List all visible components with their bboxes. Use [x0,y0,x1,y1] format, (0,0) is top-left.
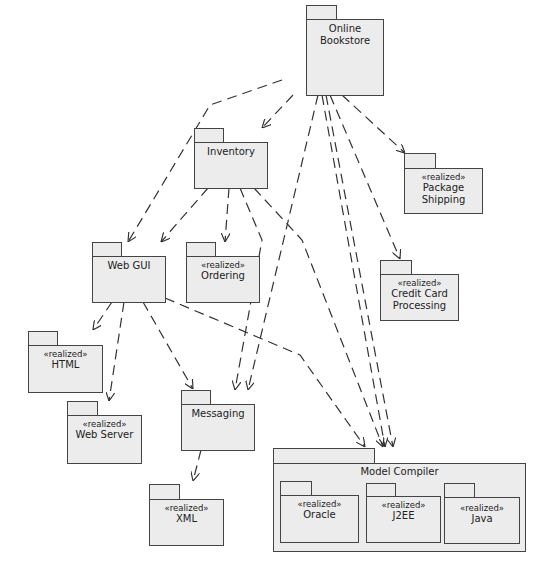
package-inventory[interactable]: Inventory [194,128,268,189]
package-body: «realized» Ordering [186,256,260,303]
package-body: Messaging [181,404,255,451]
package-diagram: Online Bookstore Inventory «realized» Pa… [0,0,551,578]
package-name: Package Shipping [405,182,482,206]
package-stereotype: «realized» [405,172,482,182]
package-oracle[interactable]: «realized» Oracle [280,481,359,543]
package-html[interactable]: «realized» HTML [28,331,103,393]
package-body: «realized» Credit Card Processing [380,274,459,321]
package-messaging[interactable]: Messaging [181,390,255,451]
package-tab [28,331,58,346]
package-xml[interactable]: «realized» XML [149,484,224,546]
package-stereotype: «realized» [445,503,519,513]
package-name: Java [445,513,519,525]
package-body: «realized» Oracle [280,495,359,543]
package-body: «realized» Package Shipping [404,168,483,214]
package-name: J2EE [367,510,440,522]
package-body: Online Bookstore [306,19,384,96]
edge-bookstore-creditcard [330,95,400,259]
package-tab [280,481,312,496]
edge-messaging-xml [193,450,201,481]
edge-bookstore-inventory [262,95,293,128]
edge-inventory-ordering [225,188,229,242]
package-tab [306,5,337,20]
package-name: Model Compiler [274,466,525,478]
package-name: Messaging [182,408,254,420]
edge-webgui-messaging [143,302,193,389]
package-name: HTML [29,359,102,371]
package-tab [380,260,412,275]
package-name: XML [150,513,223,525]
edge-webgui-html [93,302,112,330]
package-tab [181,390,211,405]
package-stereotype: «realized» [281,499,358,509]
package-web-server[interactable]: «realized» Web Server [67,401,142,464]
package-name: Web Server [68,429,141,441]
package-ordering[interactable]: «realized» Ordering [186,242,260,303]
package-name: Inventory [195,146,267,158]
package-tab [186,242,216,257]
package-stereotype: «realized» [150,503,223,513]
package-credit-card-processing[interactable]: «realized» Credit Card Processing [380,260,459,321]
edge-bookstore-compiler-1 [322,95,385,447]
package-body: «realized» Web Server [67,415,142,464]
package-body: Inventory [194,142,268,189]
package-online-bookstore[interactable]: Online Bookstore [306,5,384,96]
package-java[interactable]: «realized» Java [444,483,520,544]
package-stereotype: «realized» [381,278,458,288]
package-package-shipping[interactable]: «realized» Package Shipping [404,153,483,214]
package-tab [366,483,396,497]
package-stereotype: «realized» [29,349,102,359]
package-name: Ordering [187,270,259,282]
package-stereotype: «realized» [367,500,440,510]
package-tab [194,128,224,143]
package-body: «realized» J2EE [366,496,441,543]
package-name: Oracle [281,509,358,521]
package-tab [92,242,122,257]
package-web-gui[interactable]: Web GUI [92,242,166,303]
package-tab [67,401,98,416]
package-model-compiler[interactable]: Model Compiler «realized» Oracle «realiz… [273,448,526,552]
package-stereotype: «realized» [68,419,141,429]
edge-inventory-compiler [254,188,383,447]
package-body: «realized» Java [444,497,520,544]
edge-inventory-webgui [161,188,208,242]
package-stereotype: «realized» [187,260,259,270]
package-body: «realized» HTML [28,345,103,393]
package-name: Web GUI [93,260,165,272]
edge-webgui-webserver [109,302,124,401]
package-name: Credit Card Processing [388,288,452,312]
package-body: Web GUI [92,256,166,303]
package-tab [404,153,436,169]
package-tab [273,448,375,464]
package-name: Online Bookstore [307,23,383,47]
package-j2ee[interactable]: «realized» J2EE [366,483,441,543]
package-tab [149,484,180,500]
package-body: «realized» XML [149,499,224,546]
package-tab [444,483,475,498]
